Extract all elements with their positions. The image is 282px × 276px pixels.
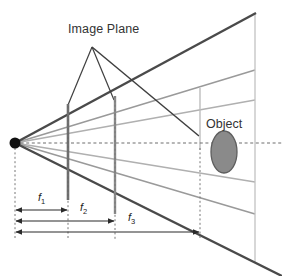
focal-length-f2-subscript: 2 — [83, 207, 87, 216]
ray-diagram-svg — [0, 0, 282, 276]
object-label: Object — [206, 117, 242, 131]
focal-length-f3-subscript: 3 — [131, 217, 135, 226]
focal-length-label-f1: f1 — [38, 191, 45, 206]
camera-center-dot — [10, 138, 21, 149]
focal-length-f1-subscript: 1 — [41, 197, 45, 206]
focal-length-label-f3: f3 — [128, 211, 135, 226]
leader-line-to-plane-f1 — [68, 47, 92, 105]
frustum-edges — [15, 13, 282, 276]
image-plane-label: Image Plane — [68, 22, 139, 36]
diagram-canvas: Image Plane Object f1 f2 f3 — [0, 0, 282, 276]
image-plane-leader-lines — [68, 47, 114, 105]
object-ellipse — [211, 131, 237, 173]
focal-length-label-f2: f2 — [80, 201, 87, 216]
leader-line-to-plane-f2 — [92, 47, 114, 100]
